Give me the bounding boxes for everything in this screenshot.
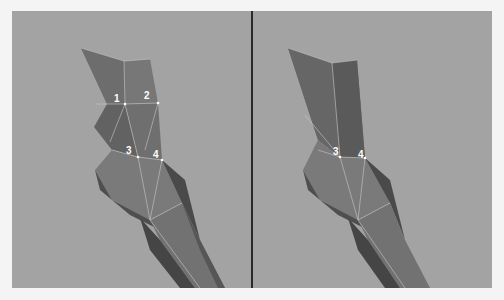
mesh-before: 1 2 3 4 [12,11,251,288]
vertex-label-2: 2 [144,90,150,101]
vertex-label-3: 3 [333,146,339,157]
vertex-label-3: 3 [126,145,132,156]
mesh-edit-figure: 1 2 3 4 [12,11,492,288]
viewport-before: 1 2 3 4 [12,11,251,288]
vertex-label-4: 4 [358,149,364,160]
vertex-label-4: 4 [153,149,159,160]
mesh-after: 3 4 [253,11,492,288]
vertex-label-1: 1 [114,93,120,104]
viewport-after: 3 4 [253,11,492,288]
